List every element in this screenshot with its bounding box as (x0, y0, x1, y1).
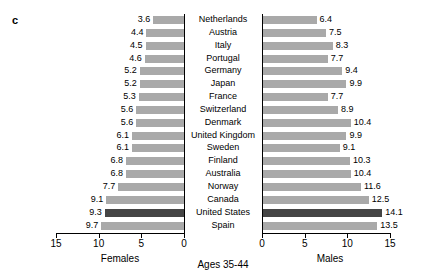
females-value-label: 6.1 (116, 141, 129, 153)
females-value-label: 5.3 (123, 90, 136, 102)
left-axis-title: Females (60, 253, 180, 265)
males-plot-cell: 6.4 (262, 14, 390, 27)
males-value-label: 11.6 (364, 180, 381, 192)
males-plot-cell: 9.4 (262, 65, 390, 78)
males-bar (262, 183, 361, 191)
country-label-cell: Spain (186, 220, 260, 233)
country-label: Austria (186, 26, 260, 38)
females-value-label: 5.2 (124, 77, 137, 89)
males-value-label: 10.4 (354, 167, 372, 179)
males-plot-cell: 8.3 (262, 40, 390, 53)
females-plot-cell: 6.8 (56, 168, 184, 181)
males-bar (262, 170, 351, 178)
left-tick-10-label: 10 (87, 238, 111, 249)
country-label: Sweden (186, 141, 260, 153)
males-value-label: 9.4 (345, 64, 358, 76)
males-value-label: 14.1 (385, 206, 403, 218)
males-bar (262, 67, 342, 75)
males-bar (262, 144, 340, 152)
females-plot-cell: 3.6 (56, 14, 184, 27)
females-plot-cell: 5.2 (56, 65, 184, 78)
females-plot-cell: 5.2 (56, 78, 184, 91)
males-bar (262, 29, 326, 37)
males-plot-cell: 7.5 (262, 27, 390, 40)
females-bar (118, 183, 184, 191)
females-value-label: 9.1 (91, 193, 104, 205)
females-value-label: 9.3 (89, 206, 102, 218)
females-plot-cell: 7.7 (56, 181, 184, 194)
country-label: Netherlands (186, 13, 260, 25)
females-bar (146, 29, 184, 37)
females-value-label: 6.8 (110, 154, 123, 166)
country-label: United States (186, 206, 260, 218)
females-bar (153, 16, 184, 24)
females-bar (136, 119, 184, 127)
country-label: United Kingdom (186, 129, 260, 141)
females-value-label: 5.6 (121, 103, 134, 115)
females-bar (136, 106, 184, 114)
males-value-label: 9.9 (349, 77, 362, 89)
males-bar (262, 80, 346, 88)
males-plot-cell: 14.1 (262, 207, 390, 220)
females-bar (140, 67, 184, 75)
males-plot-cell: 13.5 (262, 220, 390, 233)
females-value-label: 4.4 (131, 26, 144, 38)
females-bar (132, 144, 184, 152)
country-label: Canada (186, 193, 260, 205)
females-bar (140, 80, 184, 88)
males-value-label: 8.9 (341, 103, 354, 115)
females-value-label: 5.6 (121, 116, 134, 128)
females-value-label: 4.6 (129, 52, 142, 64)
males-bar (262, 42, 333, 50)
left-axis-line (56, 233, 185, 234)
females-bar (105, 209, 184, 217)
males-bar (262, 106, 338, 114)
right-tick-5-label: 5 (293, 238, 317, 249)
males-bar (262, 119, 351, 127)
country-label: Portugal (186, 52, 260, 64)
females-value-label: 6.8 (110, 167, 123, 179)
country-label: Denmark (186, 116, 260, 128)
females-bar (101, 222, 184, 230)
females-bar (146, 42, 184, 50)
females-value-label: 5.2 (124, 64, 137, 76)
left-tick-5-label: 5 (129, 238, 153, 249)
males-value-label: 12.5 (372, 193, 390, 205)
males-plot-cell: 7.7 (262, 53, 390, 66)
country-label: France (186, 90, 260, 102)
males-value-label: 10.3 (353, 154, 371, 166)
females-plot-cell: 4.6 (56, 53, 184, 66)
country-label: Switzerland (186, 103, 260, 115)
left-tick-15-label: 15 (44, 238, 68, 249)
males-value-label: 9.9 (349, 129, 362, 141)
females-plot-cell: 9.1 (56, 194, 184, 207)
country-label: Australia (186, 167, 260, 179)
females-value-label: 7.7 (103, 180, 116, 192)
country-label: Spain (186, 219, 260, 231)
males-bar (262, 157, 350, 165)
females-plot-cell: 9.3 (56, 207, 184, 220)
males-value-label: 7.7 (331, 52, 344, 64)
chart-row: 9.7Spain13.5 (0, 220, 438, 233)
males-plot-cell: 12.5 (262, 194, 390, 207)
females-bar (132, 132, 184, 140)
males-plot-cell: 9.9 (262, 78, 390, 91)
country-label: Finland (186, 154, 260, 166)
females-bar (126, 170, 184, 178)
figure-panel-c: c 3.6Netherlands6.44.4Austria7.54.5Italy… (0, 0, 438, 279)
right-tick-0-label: 0 (250, 238, 274, 249)
males-bar (262, 222, 377, 230)
males-value-label: 13.5 (380, 219, 398, 231)
right-tick-10-label: 10 (335, 238, 359, 249)
males-value-label: 7.5 (329, 26, 342, 38)
right-tick-15-label: 15 (378, 238, 402, 249)
males-plot-cell: 10.4 (262, 117, 390, 130)
center-caption: Ages 35-44 (163, 259, 283, 271)
males-plot-cell: 7.7 (262, 91, 390, 104)
males-plot-cell: 9.9 (262, 130, 390, 143)
females-plot-cell: 4.5 (56, 40, 184, 53)
females-value-label: 3.6 (138, 13, 151, 25)
chart-rows: 3.6Netherlands6.44.4Austria7.54.5Italy8.… (0, 14, 438, 232)
males-value-label: 6.4 (320, 13, 333, 25)
left-tick-0-label: 0 (172, 238, 196, 249)
